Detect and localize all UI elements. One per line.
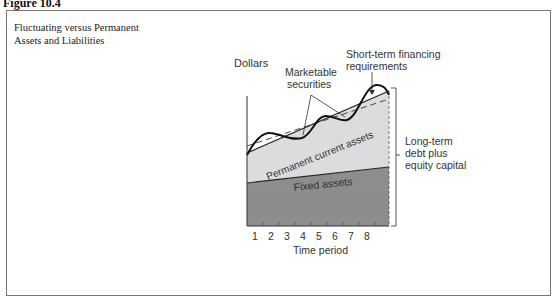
svg-text:6: 6	[332, 230, 338, 242]
long-term-bracket	[391, 88, 396, 226]
x-tick-labels: 1 2 3 4 5 6 7 8	[252, 230, 370, 242]
short-term-label-1: Short-term financing	[346, 48, 441, 60]
svg-text:2: 2	[268, 230, 274, 242]
long-term-label-2: debt plus	[405, 147, 448, 159]
marketable-label-1: Marketable	[285, 66, 337, 78]
svg-text:8: 8	[364, 230, 370, 242]
svg-text:3: 3	[284, 230, 290, 242]
marketable-label-2: securities	[287, 78, 331, 90]
svg-text:1: 1	[252, 230, 258, 242]
svg-text:7: 7	[348, 230, 354, 242]
svg-text:4: 4	[300, 230, 306, 242]
short-term-label-2: requirements	[346, 60, 407, 72]
svg-text:5: 5	[316, 230, 322, 242]
short-term-arrowhead	[369, 90, 375, 95]
chart: Dollars Marketable securities Short-term…	[0, 0, 556, 299]
y-axis-label: Dollars	[234, 57, 269, 69]
long-term-label-3: equity capital	[405, 159, 466, 171]
long-term-label-1: Long-term	[405, 135, 453, 147]
x-axis-label: Time period	[293, 244, 348, 256]
